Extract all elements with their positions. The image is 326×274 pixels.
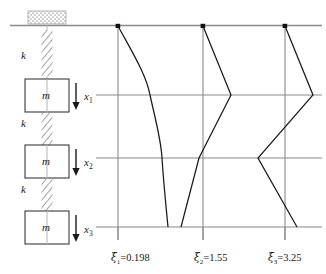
figure-root: k k k m m m x1 x2 x3 ξ1=0.198 ξ2=1.55 ξ3…: [0, 0, 326, 274]
fixed-support-block: [28, 11, 66, 24]
spring-label-2: k: [21, 118, 26, 129]
xi-value-1: 0.198: [126, 252, 150, 263]
eigenvalue-label-2: ξ2=1.55: [194, 252, 228, 266]
dof-label-1: x1: [84, 91, 93, 105]
dof-label-2-sub: 2: [89, 162, 93, 171]
dof-label-3: x3: [84, 224, 93, 238]
spring-2: [42, 112, 53, 146]
dof-arrow-1: [72, 83, 79, 110]
dof-arrow-2: [72, 149, 79, 176]
mode3-anchor-node: [283, 24, 288, 28]
mode1-anchor-node: [116, 24, 121, 28]
xi-value-2: 1.55: [209, 252, 227, 263]
spring-1: [42, 25, 53, 80]
spring-label-1: k: [21, 50, 26, 61]
mode-shape-curve-1: [116, 24, 168, 227]
dof-label-1-sub: 1: [89, 96, 93, 105]
spring-label-3: k: [21, 184, 26, 195]
dof-arrow-3: [72, 215, 79, 242]
mode2-anchor-node: [201, 24, 206, 28]
mode-shape-curve-2: [181, 24, 231, 227]
eigenvalue-label-1: ξ1=0.198: [111, 252, 150, 266]
dof-label-3-sub: 3: [89, 229, 93, 238]
mass-label-1: m: [42, 90, 50, 101]
mass-label-3: m: [42, 222, 50, 233]
spring-3: [42, 178, 53, 212]
xi-value-3: 3.25: [283, 252, 301, 263]
eigenvalue-label-3: ξ3=3.25: [268, 252, 302, 266]
dof-label-2: x2: [84, 157, 93, 171]
mass-label-2: m: [42, 156, 50, 167]
